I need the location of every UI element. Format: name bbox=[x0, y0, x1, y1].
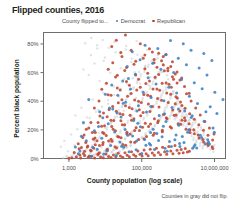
scatter-plot: 0%20%40%60%80% 1,000100,00010,000,000 bbox=[0, 0, 237, 207]
y-axis-title: Percent black population bbox=[13, 39, 20, 159]
x-tick-label: 1,000 bbox=[62, 165, 76, 171]
chart-footnote: Counties in gray did not flip. bbox=[161, 193, 228, 199]
x-tick-label: 100,000 bbox=[132, 165, 152, 171]
flipped-counties-scatter-figure: Flipped counties, 2016 County flipped to… bbox=[0, 0, 237, 207]
y-tick-label: 0% bbox=[30, 156, 38, 162]
x-axis-ticks: 1,000100,00010,000,000 bbox=[62, 159, 229, 171]
y-axis-ticks: 0%20%40%60%80% bbox=[27, 41, 43, 162]
x-tick-label: 10,000,000 bbox=[201, 165, 229, 171]
y-tick-label: 80% bbox=[27, 41, 38, 47]
y-tick-label: 20% bbox=[27, 127, 38, 133]
y-tick-label: 60% bbox=[27, 70, 38, 76]
y-tick-label: 40% bbox=[27, 98, 38, 104]
x-axis-title: County population (log scale) bbox=[43, 177, 226, 184]
